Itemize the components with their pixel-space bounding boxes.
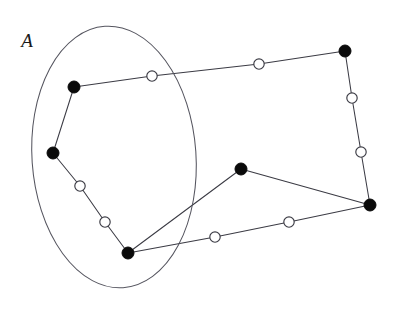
graph-edge bbox=[128, 169, 241, 253]
graph-edge bbox=[215, 222, 289, 237]
graph-node-open bbox=[210, 232, 220, 242]
graph-edge bbox=[352, 98, 361, 152]
labels-layer: A bbox=[19, 30, 33, 51]
graph-edge bbox=[74, 76, 152, 87]
graph-node-open bbox=[284, 217, 294, 227]
graph-node-filled bbox=[364, 199, 376, 211]
graph-node-open bbox=[75, 181, 85, 191]
graph-node-filled bbox=[122, 247, 134, 259]
graph-node-filled bbox=[235, 163, 247, 175]
graph-edge bbox=[128, 237, 215, 253]
graph-node-filled bbox=[339, 45, 351, 57]
set-a-label: A bbox=[19, 30, 33, 51]
graph-edge bbox=[80, 186, 105, 222]
nodes-layer bbox=[47, 45, 376, 259]
graph-node-filled bbox=[47, 147, 59, 159]
graph-node-open bbox=[254, 59, 264, 69]
graph-node-open bbox=[356, 147, 366, 157]
graph-edge bbox=[361, 152, 370, 205]
graph-node-open bbox=[100, 217, 110, 227]
graph-node-filled bbox=[68, 81, 80, 93]
graph-node-open bbox=[147, 71, 157, 81]
figure-canvas: A bbox=[0, 0, 396, 311]
graph-edge bbox=[259, 51, 345, 64]
graph-node-open bbox=[347, 93, 357, 103]
graph-edge bbox=[345, 51, 352, 98]
graph-edge bbox=[53, 87, 74, 153]
graph-diagram-svg: A bbox=[0, 0, 396, 311]
graph-edge bbox=[152, 64, 259, 76]
graph-edge bbox=[289, 205, 370, 222]
graph-edge bbox=[241, 169, 370, 205]
